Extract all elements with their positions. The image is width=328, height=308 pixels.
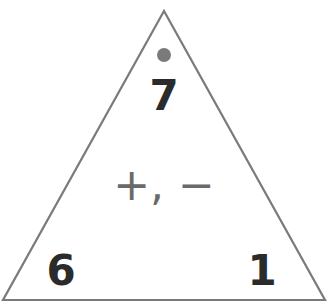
triangle-canvas: 7 +, − 6 1 [0,0,328,308]
bottom-left-number: 6 [46,246,75,295]
operations-label: +, − [113,159,215,210]
fact-triangle-diagram: 7 +, − 6 1 [0,0,328,308]
top-dot-marker [157,48,171,62]
bottom-right-number: 1 [247,246,276,295]
top-number: 7 [149,71,178,120]
